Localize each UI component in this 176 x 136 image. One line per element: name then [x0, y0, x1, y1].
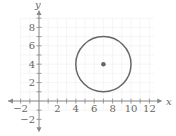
y-tick-label: 4: [29, 59, 35, 70]
x-axis-arrow-right-icon: [157, 99, 162, 104]
x-tick-label: 12: [143, 103, 156, 114]
x-tick-label: 6: [91, 103, 97, 114]
x-tick-label: 4: [73, 103, 79, 114]
center-point: [101, 62, 106, 67]
coordinate-plane: −224681012−22468xy: [0, 0, 176, 136]
x-tick-label: 2: [54, 103, 60, 114]
y-axis-arrow-up-icon: [37, 10, 42, 15]
y-axis-arrow-down-icon: [37, 127, 42, 132]
y-tick-label: 8: [29, 22, 35, 33]
x-axis-label: x: [166, 96, 172, 107]
y-tick-label: 2: [29, 77, 35, 88]
x-tick-label: 10: [125, 103, 138, 114]
y-axis-label: y: [34, 0, 41, 10]
y-tick-label: 6: [29, 40, 35, 51]
x-tick-label: −2: [13, 103, 28, 114]
y-tick-label: −2: [20, 114, 35, 125]
x-tick-label: 8: [109, 103, 115, 114]
